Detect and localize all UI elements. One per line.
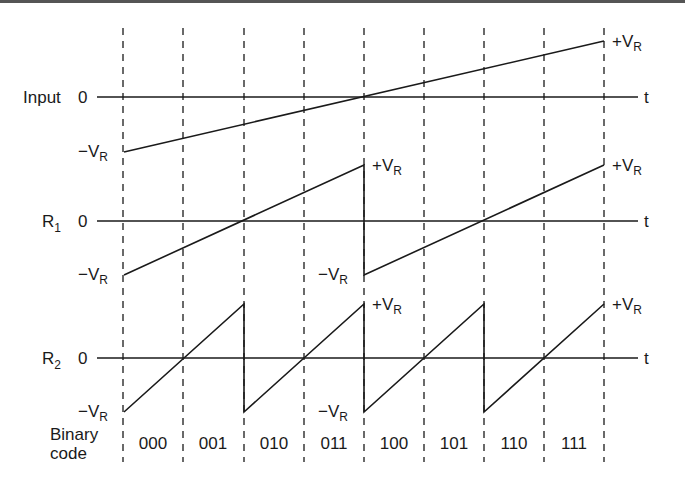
binary-label-line2: code	[50, 444, 87, 463]
code-4: 100	[380, 434, 408, 453]
r2-row-label: R2	[42, 349, 61, 372]
r2-zero-label: 0	[78, 349, 87, 368]
binary-codes: 000 001 010 011 100 101 110 111	[139, 434, 587, 453]
code-6: 110	[500, 434, 527, 453]
r1-zero-label: 0	[78, 212, 87, 231]
r1-minus-vr: −VR	[78, 265, 108, 287]
code-5: 101	[440, 434, 468, 453]
r2-plus-vr-end: +VR	[612, 295, 642, 317]
binary-label-line1: Binary	[50, 425, 99, 444]
input-row-label: Input	[23, 88, 61, 107]
input-plus-vr: +VR	[612, 32, 642, 54]
r1-plus-vr-end: +VR	[612, 156, 642, 178]
r2-plus-vr-mid: +VR	[372, 295, 402, 317]
input-minus-vr: −VR	[78, 142, 108, 164]
code-7: 111	[561, 434, 587, 453]
r1-minus-vr-mid: −VR	[318, 265, 348, 287]
r1-sawtooth	[124, 165, 604, 275]
r2-t-label: t	[644, 349, 649, 368]
r1-plus-vr-mid: +VR	[372, 156, 402, 178]
r2-minus-vr-mid: −VR	[318, 402, 348, 424]
input-t-label: t	[644, 88, 649, 107]
code-1: 001	[199, 434, 227, 453]
r2-minus-vr: −VR	[78, 402, 108, 424]
r1-row-label: R1	[42, 212, 61, 235]
input-zero-label: 0	[78, 88, 87, 107]
code-0: 000	[139, 434, 167, 453]
code-3: 011	[320, 434, 347, 453]
adc-waveform-diagram: Input 0 t +VR −VR R1 0 t +VR +VR −VR −VR…	[0, 0, 685, 487]
code-2: 010	[260, 434, 288, 453]
r1-t-label: t	[644, 212, 649, 231]
